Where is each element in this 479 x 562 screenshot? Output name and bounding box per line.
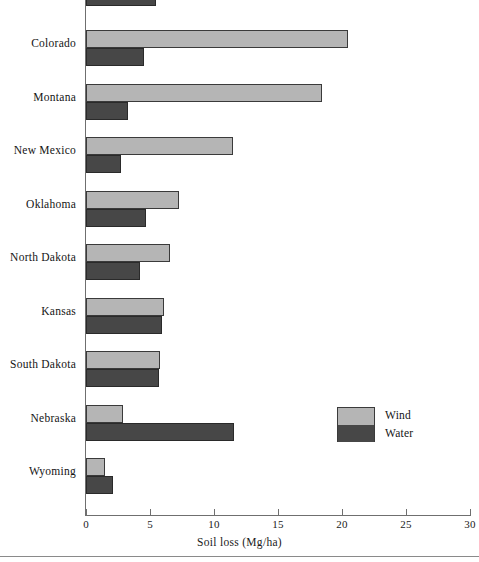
x-axis-title: Soil loss (Mg/ha)	[0, 536, 479, 548]
x-tick-25	[406, 509, 407, 516]
x-tick-label-20: 20	[336, 518, 347, 530]
x-tick-label-10: 10	[208, 518, 219, 530]
bar-wind-wyoming	[86, 458, 105, 476]
bar-water-kansas	[86, 316, 162, 334]
x-tick-20	[342, 509, 343, 516]
bar-water-montana	[86, 102, 128, 120]
bar-wind-south-dakota	[86, 351, 160, 369]
x-tick-15	[278, 509, 279, 516]
category-label-south-dakota: South Dakota	[10, 358, 76, 370]
x-tick-label-0: 0	[83, 518, 89, 530]
bar-wind-new-mexico	[86, 137, 233, 155]
bar-wind-kansas	[86, 298, 164, 316]
bar-wind-oklahoma	[86, 191, 179, 209]
bar-water-wyoming	[86, 476, 113, 494]
category-label-colorado: Colorado	[31, 37, 76, 49]
bar-wind-nebraska	[86, 405, 123, 423]
bar-water-clipped	[86, 0, 156, 6]
bar-water-new-mexico	[86, 155, 121, 173]
soil-loss-bar-chart: 051015202530 ColoradoMontanaNew MexicoOk…	[0, 0, 479, 562]
bar-water-oklahoma	[86, 209, 146, 227]
x-tick-0	[86, 509, 87, 516]
x-tick-5	[150, 509, 151, 516]
bar-water-nebraska	[86, 423, 234, 441]
bar-water-colorado	[86, 48, 144, 66]
category-label-new-mexico: New Mexico	[14, 144, 76, 156]
legend-label-wind: Wind	[385, 409, 411, 421]
bar-water-south-dakota	[86, 369, 159, 387]
category-label-nebraska: Nebraska	[31, 412, 76, 424]
x-tick-30	[470, 509, 471, 516]
category-label-wyoming: Wyoming	[29, 465, 76, 477]
category-label-montana: Montana	[33, 91, 76, 103]
x-tick-label-30: 30	[464, 518, 475, 530]
x-tick-label-5: 5	[147, 518, 153, 530]
legend-label-water: Water	[385, 427, 413, 439]
category-label-north-dakota: North Dakota	[10, 251, 76, 263]
bar-wind-north-dakota	[86, 244, 170, 262]
legend-swatch-water	[338, 425, 374, 442]
x-tick-label-25: 25	[400, 518, 411, 530]
page-footer-rule	[0, 556, 479, 557]
bar-wind-montana	[86, 84, 322, 102]
bar-water-north-dakota	[86, 262, 140, 280]
x-tick-10	[214, 509, 215, 516]
category-label-oklahoma: Oklahoma	[26, 198, 76, 210]
x-tick-label-15: 15	[272, 518, 283, 530]
bar-wind-colorado	[86, 30, 348, 48]
legend-swatch-wind	[337, 407, 375, 442]
category-label-kansas: Kansas	[41, 305, 76, 317]
